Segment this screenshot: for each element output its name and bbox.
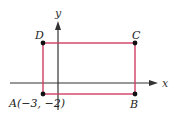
coordinate-diagram: x y A(−3, −2) B C D xyxy=(0,0,173,118)
label-c: C xyxy=(132,29,141,42)
x-axis: x xyxy=(10,77,169,90)
label-d: D xyxy=(34,29,44,42)
y-axis-arrow-icon xyxy=(55,21,61,30)
label-a: A(−3, −2) xyxy=(8,97,65,110)
rectangle-abcd xyxy=(43,43,135,94)
y-axis-label: y xyxy=(54,7,62,20)
label-b: B xyxy=(129,98,138,111)
point-a xyxy=(41,92,46,97)
x-axis-arrow-icon xyxy=(149,80,158,86)
x-axis-label: x xyxy=(162,77,169,90)
point-b xyxy=(133,92,138,97)
